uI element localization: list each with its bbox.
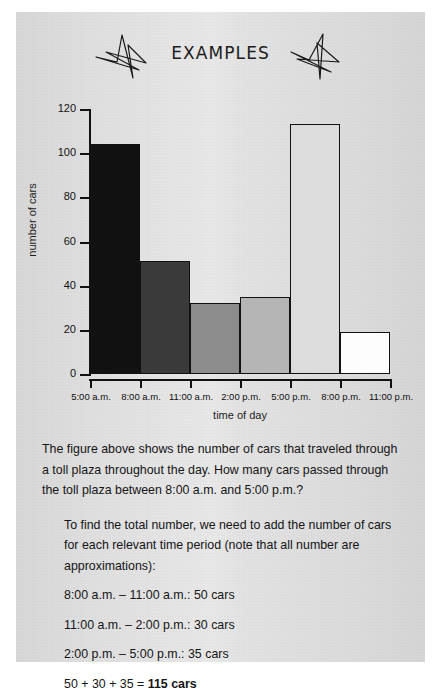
x-tick [90, 379, 92, 388]
solution-intro: To find the total number, we need to add… [64, 515, 402, 577]
y-tick-label: 80 [36, 190, 76, 202]
calculation-line: 8:00 a.m. – 11:00 a.m.: 50 cars [64, 585, 402, 606]
y-tick-label: 20 [36, 323, 76, 335]
bar [290, 124, 340, 374]
solution-block: To find the total number, we need to add… [64, 515, 402, 692]
x-tick [340, 379, 342, 388]
bar [340, 332, 390, 374]
x-tick-label: 11:00 p.m. [358, 391, 424, 402]
scanned-page: EXAMPLES number of cars 020406080100120 … [16, 12, 425, 662]
x-axis-label: time of day [89, 409, 391, 421]
question-text: The figure above shows the number of car… [42, 439, 402, 501]
y-tick-label: 100 [36, 146, 76, 158]
bar-chart: number of cars 020406080100120 5:00 a.m.… [16, 96, 425, 426]
y-tick [80, 374, 91, 376]
x-tick [240, 379, 242, 388]
x-tick [140, 379, 142, 388]
bar [240, 297, 290, 374]
calculation-line: 11:00 a.m. – 2:00 p.m.: 30 cars [64, 615, 402, 636]
y-axis-label: number of cars [26, 155, 38, 285]
page-header: EXAMPLES [16, 30, 425, 86]
total-line: 50 + 30 + 35 = 115 cars [64, 674, 402, 692]
x-tick [390, 379, 392, 388]
explanation-text: The figure above shows the number of car… [42, 439, 402, 692]
bar [140, 261, 190, 374]
y-tick-label: 40 [36, 279, 76, 291]
bar [90, 144, 140, 374]
total-prefix: 50 + 30 + 35 = [64, 677, 148, 691]
total-answer: 115 cars [148, 677, 197, 691]
x-tick [190, 379, 192, 388]
star-doodle-icon [287, 32, 349, 82]
x-tick [290, 379, 292, 388]
bar [190, 303, 240, 374]
page-title: EXAMPLES [16, 43, 425, 63]
y-tick-label: 0 [36, 367, 76, 379]
y-tick-label: 120 [36, 102, 76, 114]
calculation-lines: 8:00 a.m. – 11:00 a.m.: 50 cars11:00 a.m… [64, 585, 402, 665]
y-tick [80, 109, 91, 111]
calculation-line: 2:00 p.m. – 5:00 p.m.: 35 cars [64, 644, 402, 665]
plot-area: 020406080100120 [89, 109, 389, 374]
y-tick-label: 60 [36, 235, 76, 247]
